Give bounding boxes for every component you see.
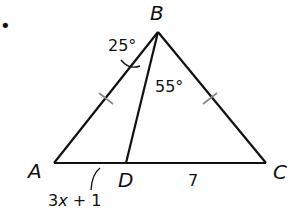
vertex-label-d: D	[118, 168, 133, 192]
vertex-label-c: C	[273, 160, 287, 184]
vertex-label-a: A	[26, 159, 42, 183]
angle-arc-abd	[121, 60, 140, 67]
vertex-label-b: B	[150, 1, 164, 25]
bullet-marker: •	[0, 15, 11, 36]
segment-ad-label: 3x + 1	[48, 191, 101, 210]
segment-ad-arc	[91, 168, 100, 190]
angle-abd-label: 25°	[108, 36, 136, 55]
triangle-diagram: • B A D C 25° 55° 7 3x + 1	[0, 0, 296, 221]
segment-dc-label: 7	[188, 171, 198, 190]
angle-dbc-label: 55°	[155, 77, 183, 96]
